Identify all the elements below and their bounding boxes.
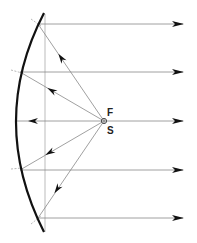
parabolic-mirror-diagram: F S xyxy=(0,0,197,243)
incident-ray-1 xyxy=(38,24,104,121)
arrow-icon xyxy=(44,147,56,157)
focus-label: F xyxy=(107,107,113,118)
arrow-icon xyxy=(56,52,67,64)
arrow-icon xyxy=(46,85,58,95)
source-label: S xyxy=(107,125,114,136)
incident-ray-4 xyxy=(20,121,104,170)
arrowheads-incident xyxy=(28,52,66,195)
incident-ray-5 xyxy=(38,121,104,218)
incident-ray-2 xyxy=(20,72,104,121)
parabolic-mirror xyxy=(16,13,44,232)
